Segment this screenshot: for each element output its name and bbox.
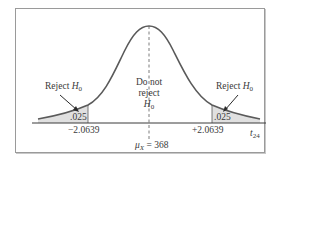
- mean-value: 368: [154, 140, 168, 150]
- equals-sign: =: [144, 140, 154, 150]
- right-h-symbol: H: [243, 81, 250, 91]
- middle-line2: reject: [126, 88, 172, 99]
- left-area-label: .025: [70, 113, 87, 123]
- do-not-reject-label: Do not reject H0: [126, 77, 172, 113]
- right-area-label: .025: [214, 113, 231, 123]
- left-arrow: [60, 95, 77, 110]
- right-critical-value: +2.0639: [192, 126, 223, 136]
- left-reject-label: Reject H0: [45, 82, 82, 93]
- left-h-symbol: H: [72, 81, 79, 91]
- right-reject-text: Reject: [216, 81, 243, 91]
- middle-h: H0: [126, 99, 172, 113]
- left-reject-text: Reject: [45, 81, 72, 91]
- middle-h-symbol: H: [144, 99, 151, 109]
- right-h-sub: 0: [250, 85, 254, 93]
- axis-t-label: t24: [250, 129, 260, 140]
- right-arrow: [225, 95, 238, 110]
- left-critical-value: −2.0639: [68, 126, 99, 136]
- left-h-sub: 0: [79, 85, 83, 93]
- middle-line1: Do not: [126, 77, 172, 88]
- middle-h-sub: 0: [151, 103, 155, 111]
- df-sub: 24: [253, 132, 260, 140]
- mean-label: μX = 368: [135, 141, 168, 152]
- right-reject-label: Reject H0: [216, 82, 253, 93]
